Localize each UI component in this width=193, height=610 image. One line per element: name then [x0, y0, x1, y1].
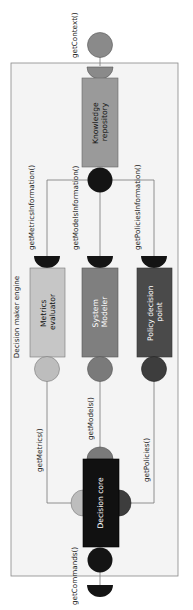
get-policies-label: getPolicies() — [142, 438, 151, 482]
metrics-provided-interface-icon — [35, 357, 60, 382]
container-label: Decision maker engine — [12, 275, 21, 358]
commands-required-socket-icon — [87, 585, 113, 597]
context-provided-interface-icon — [88, 33, 113, 58]
get-metrics-information-label: getMetricsInformation() — [27, 165, 36, 250]
get-policies-information-label: getPoliciesInformation() — [133, 164, 142, 250]
get-models-label: getModels() — [86, 397, 95, 440]
system-modeler-label: System Modeler — [91, 296, 109, 328]
knowledge-provided-interface-icon — [88, 168, 113, 193]
get-context-label: getContext() — [70, 12, 79, 58]
get-models-information-label: getModelsInformation() — [71, 165, 80, 250]
decision-core-label: Decision core — [96, 477, 105, 529]
policy-provided-interface-icon — [142, 357, 167, 382]
get-commands-label: getCommands() — [70, 547, 79, 605]
architecture-diagram: Knowledge repository Metrics evaluator S… — [0, 0, 193, 610]
metrics-evaluator-label: Metrics evaluator — [39, 293, 57, 330]
system-provided-interface-icon — [88, 357, 113, 382]
knowledge-repository-label: Knowledge repository — [91, 100, 109, 144]
get-metrics-label: getMetrics() — [35, 428, 44, 472]
core-provided-interface-icon — [88, 548, 113, 573]
